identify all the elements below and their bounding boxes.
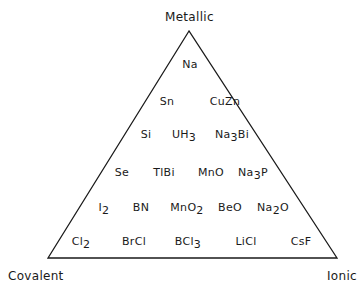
compound-si: Si <box>141 129 152 141</box>
compound-na3p: Na3P <box>238 167 268 179</box>
compound-na: Na <box>182 59 198 71</box>
compound-mno: MnO <box>198 167 224 179</box>
compound-bcl3: BCl3 <box>175 236 201 248</box>
compound-na3bi: Na3Bi <box>215 129 249 141</box>
vertex-label-covalent: Covalent <box>8 270 64 282</box>
compound-cl2: Cl2 <box>72 236 91 248</box>
vertex-label-ionic: Ionic <box>327 270 357 282</box>
compound-na2o: Na2O <box>257 202 289 214</box>
compound-cuzn: CuZn <box>210 96 240 108</box>
compound-csf: CsF <box>291 236 312 248</box>
compound-licl: LiCl <box>235 236 256 248</box>
compound-sn: Sn <box>160 96 175 108</box>
compound-uh3: UH3 <box>172 129 196 141</box>
compound-se: Se <box>115 167 129 179</box>
compound-bn: BN <box>133 202 149 214</box>
compound-tlbi: TlBi <box>153 167 175 179</box>
compound-i2: I2 <box>99 202 110 214</box>
compound-mno2: MnO2 <box>170 202 203 214</box>
vertex-label-metallic: Metallic <box>165 11 214 23</box>
compound-beo: BeO <box>218 202 242 214</box>
compound-brcl: BrCl <box>122 236 146 248</box>
